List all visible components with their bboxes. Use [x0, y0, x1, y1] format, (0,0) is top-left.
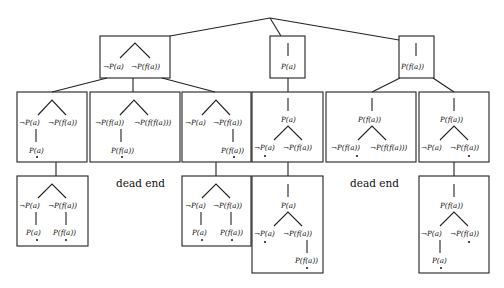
svg-text:¬P(a): ¬P(a)	[254, 143, 275, 152]
svg-text:P(f(a)): P(f(a))	[110, 146, 134, 155]
box-b1: P(a) ¬P(a) ¬P(f(a))	[252, 92, 323, 162]
svg-text:P(a): P(a)	[280, 201, 296, 210]
box-a3-child: ¬P(a) ¬P(f(a)) P(a) P(f(a))	[182, 176, 251, 246]
box-a3: ¬P(a) ¬P(f(a)) P(f(a))	[182, 92, 251, 162]
svg-text:¬P(a): ¬P(a)	[185, 118, 206, 127]
tableau-tree-diagram: ¬P(a) ¬P(f(a)) P(a) P(f(a)) ¬P(a) ¬P(f(a…	[0, 0, 504, 288]
svg-text:¬P(f(a)): ¬P(f(a))	[450, 143, 479, 152]
level1-edges	[52, 78, 454, 92]
svg-text:¬P(a): ¬P(a)	[185, 201, 206, 210]
svg-text:P(f(a)): P(f(a))	[400, 62, 424, 71]
box-a2: ¬P(f(a)) ¬P(f(f(a))) P(f(a))	[90, 92, 180, 162]
svg-text:P(f(a)): P(f(a))	[357, 115, 381, 124]
svg-text:P(a): P(a)	[191, 228, 207, 237]
box-a1-child: ¬P(a) ¬P(f(a)) P(a) P(f(a))	[17, 176, 88, 246]
not-pfa-label: ¬P(f(a))	[131, 62, 160, 71]
svg-text:P(a): P(a)	[431, 256, 447, 265]
dead-end-label-1: dead end	[116, 177, 165, 189]
dead-end-label-2: dead end	[350, 177, 399, 189]
box-c2: P(f(a)) ¬P(a) ¬P(f(a))	[419, 92, 489, 162]
svg-text:¬P(f(a)): ¬P(f(a))	[48, 201, 77, 210]
not-pa-label: ¬P(a)	[103, 62, 124, 71]
svg-text:¬P(f(a)): ¬P(f(a))	[450, 229, 479, 238]
root-edges	[170, 18, 399, 40]
box-b1-child: P(a) ¬P(a) ¬P(f(a)) P(f(a))	[252, 176, 323, 273]
svg-text:P(f(a)): P(f(a))	[52, 228, 76, 237]
svg-text:¬P(f(a)): ¬P(f(a))	[213, 201, 242, 210]
svg-text:P(a): P(a)	[28, 146, 44, 155]
box-a1: ¬P(a) ¬P(f(a)) P(a)	[17, 92, 87, 162]
svg-text:¬P(f(a)): ¬P(f(a))	[95, 118, 124, 127]
svg-text:P(a): P(a)	[280, 62, 296, 71]
svg-text:P(a): P(a)	[280, 115, 296, 124]
svg-text:P(f(a)): P(f(a))	[439, 201, 463, 210]
svg-text:P(f(a)): P(f(a))	[294, 256, 318, 265]
svg-text:¬P(f(f(a))): ¬P(f(f(a)))	[370, 143, 407, 152]
box-c2-child: P(f(a)) ¬P(a) ¬P(f(a)) P(a)	[419, 176, 489, 273]
svg-text:¬P(a): ¬P(a)	[254, 229, 275, 238]
svg-text:¬P(f(f(a))): ¬P(f(f(a)))	[134, 118, 171, 127]
svg-text:P(f(a)): P(f(a))	[219, 228, 243, 237]
svg-text:¬P(a): ¬P(a)	[421, 143, 442, 152]
svg-text:¬P(f(a)): ¬P(f(a))	[283, 229, 312, 238]
svg-text:P(f(a)): P(f(a))	[220, 146, 244, 155]
svg-text:¬P(a): ¬P(a)	[421, 229, 442, 238]
svg-text:¬P(a): ¬P(a)	[19, 118, 40, 127]
svg-text:P(a): P(a)	[25, 228, 41, 237]
box-c1: P(f(a)) ¬P(f(a)) ¬P(f(f(a)))	[326, 92, 416, 162]
svg-text:¬P(f(a)): ¬P(f(a))	[331, 143, 360, 152]
box-b: P(a)	[270, 36, 305, 78]
svg-text:¬P(f(a)): ¬P(f(a))	[48, 118, 77, 127]
box-a: ¬P(a) ¬P(f(a))	[100, 36, 170, 78]
box-c: P(f(a))	[399, 36, 434, 78]
svg-text:P(f(a)): P(f(a))	[439, 115, 463, 124]
svg-text:¬P(f(a)): ¬P(f(a))	[283, 143, 312, 152]
level2-edges	[56, 162, 454, 176]
svg-text:¬P(a): ¬P(a)	[19, 201, 40, 210]
svg-text:¬P(f(a)): ¬P(f(a))	[213, 118, 242, 127]
